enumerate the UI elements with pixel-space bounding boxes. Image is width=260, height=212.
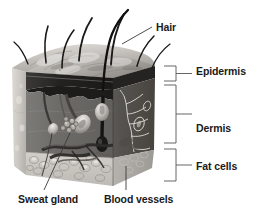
fat-cells-layer	[26, 152, 113, 186]
bracket-fat-cells	[164, 149, 192, 181]
label-hair: Hair	[156, 22, 176, 33]
skin-left-face	[12, 68, 26, 175]
leader-hair	[122, 27, 152, 44]
label-fat-cells: Fat cells	[196, 161, 237, 172]
layer-brackets	[164, 66, 192, 181]
skin-cross-section-illustration	[0, 0, 260, 212]
label-blood-vessels: Blood vessels	[104, 194, 173, 205]
bracket-epidermis	[164, 66, 192, 81]
label-epidermis: Epidermis	[196, 66, 246, 77]
bracket-dermis	[164, 85, 192, 143]
skin-diagram: Hair Epidermis Dermis Fat cells Sweat gl…	[0, 0, 260, 212]
skin-right-face	[113, 66, 155, 186]
label-dermis: Dermis	[196, 123, 231, 134]
label-sweat-gland: Sweat gland	[18, 194, 78, 205]
